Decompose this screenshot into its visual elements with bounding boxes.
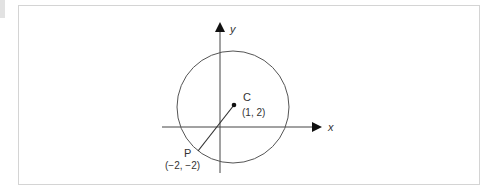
point-label: P [184, 147, 191, 159]
point-coords: (−2, −2) [165, 160, 200, 171]
center-coords: (1, 2) [242, 107, 265, 118]
y-axis-label: y [229, 23, 237, 35]
x-axis-label: x [327, 121, 334, 133]
x-axis-arrow-icon [312, 122, 322, 132]
y-axis-arrow-icon [215, 22, 225, 32]
center-label: C [243, 91, 251, 103]
center-point [232, 103, 237, 108]
radius-segment [198, 105, 234, 151]
circle-diagram: y x C (1, 2) P (−2, −2) [0, 0, 491, 194]
